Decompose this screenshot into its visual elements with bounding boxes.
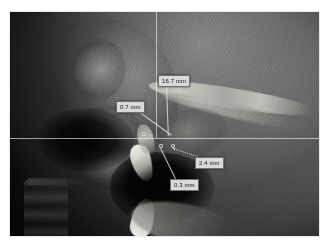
- measurement-label-posterior-gap[interactable]: 2.4 mm: [195, 157, 224, 169]
- nasal-airspace-void: [38, 108, 134, 172]
- scan-image-frame[interactable]: 16.7 mm0.7 mm2.4 mm0.3 mm: [10, 12, 319, 236]
- cervical-vertebra-shelf: [28, 178, 114, 185]
- cbct-viewer: 16.7 mm0.7 mm2.4 mm0.3 mm: [0, 0, 329, 249]
- crosshair-vertical-line[interactable]: [156, 12, 157, 138]
- measurement-label-inferior-gap[interactable]: 0.3 mm: [170, 179, 199, 191]
- crosshair-horizontal-line[interactable]: [10, 138, 319, 139]
- node-posterior[interactable]: [171, 144, 175, 148]
- measurement-label-airway-length[interactable]: 16.7 mm: [158, 75, 190, 87]
- cervical-vertebra: [24, 180, 68, 236]
- node-center[interactable]: [159, 144, 163, 148]
- measurement-label-anterior-gap[interactable]: 0.7 mm: [116, 101, 145, 113]
- node-anterior[interactable]: [142, 132, 146, 136]
